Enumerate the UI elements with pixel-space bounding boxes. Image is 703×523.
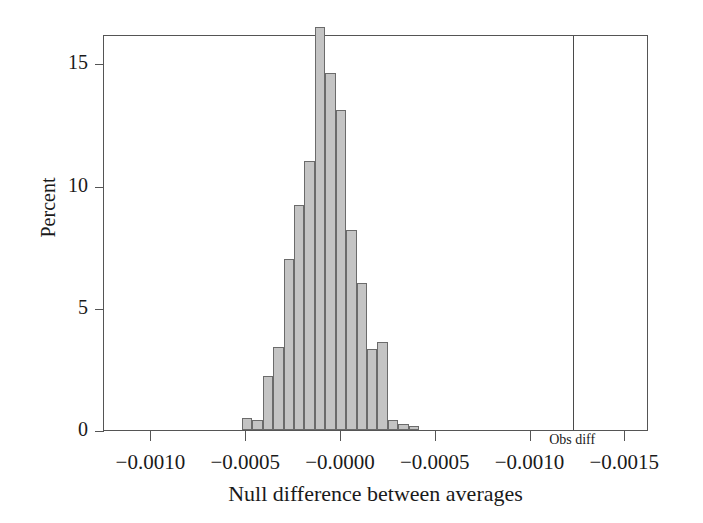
histogram-bar [357,283,367,430]
obs-diff-reference-line [573,36,574,430]
histogram-bar [242,418,252,430]
histogram-figure: Percent Null difference between averages… [0,0,703,523]
x-axis-tick [624,431,625,441]
y-axis-tick [95,64,104,65]
histogram-bar [377,342,387,430]
histogram-bar [367,349,377,430]
histogram-bar [294,205,304,430]
histogram-bar [409,426,419,430]
histogram-bar [252,420,262,430]
y-axis-tick-label: 15 [40,51,88,74]
x-axis-tick-label: −0.0015 [559,450,689,475]
x-axis-tick [150,431,151,441]
y-axis-tick-label: 5 [40,296,88,319]
histogram-bar [325,73,335,430]
y-axis-tick-label: 10 [40,174,88,197]
y-axis-tick-label: 0 [40,418,88,441]
histogram-bar [398,424,408,430]
y-axis-title: Percent [37,148,60,268]
y-axis-tick [95,309,104,310]
histogram-bar [336,110,346,430]
obs-diff-label: Obs diff [527,432,617,448]
histogram-bar [273,347,283,430]
histogram-bars [104,36,647,430]
plot-area [103,35,648,431]
x-axis-tick [435,431,436,441]
x-axis-title: Null difference between averages [103,481,648,507]
x-axis-tick [530,431,531,441]
histogram-bar [346,230,356,430]
x-axis-tick [245,431,246,441]
histogram-bar [304,161,314,430]
x-axis-tick [340,431,341,441]
histogram-bar [284,259,294,430]
histogram-bar [315,27,325,430]
y-axis-tick [95,187,104,188]
y-axis-tick [95,431,104,432]
histogram-bar [388,420,398,430]
histogram-bar [263,376,273,430]
